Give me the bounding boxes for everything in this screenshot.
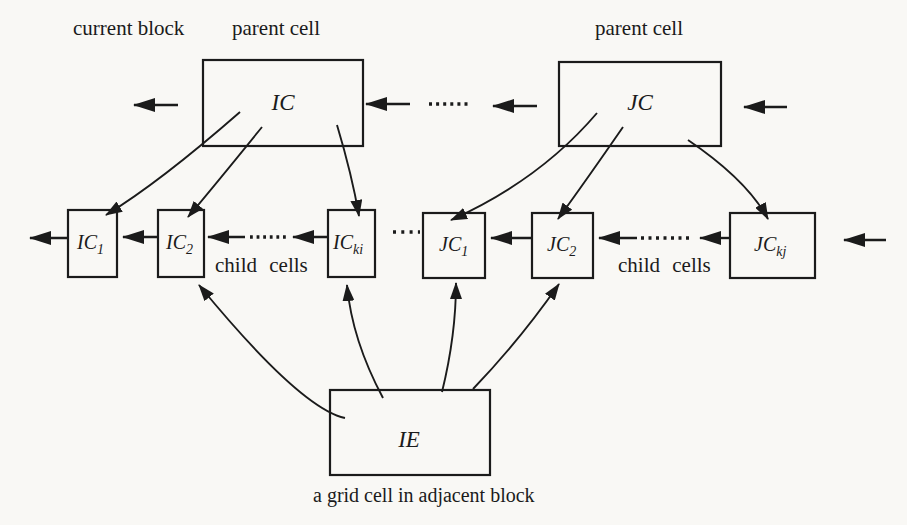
jc1-child-label: JC1 bbox=[439, 233, 468, 259]
arrow-jc-to-jc1 bbox=[451, 113, 597, 220]
parent-cell-label-right: parent cell bbox=[595, 16, 683, 40]
ic2-sub: 2 bbox=[186, 242, 193, 257]
arrow-ic-to-ic2 bbox=[188, 127, 262, 217]
jckj-child-label: JCkj bbox=[754, 233, 786, 259]
jc-parent-label: JC bbox=[627, 90, 653, 115]
icki-main: IC bbox=[332, 231, 354, 253]
jc2-sub: 2 bbox=[569, 244, 576, 259]
arrow-ie-to-jc2 bbox=[473, 284, 559, 389]
jc2-child-label: JC2 bbox=[547, 233, 576, 259]
diagram-stage: current block parent cell parent cell IC… bbox=[0, 0, 907, 525]
child-cells-label-right: child cells bbox=[618, 253, 711, 277]
jc2-main: JC bbox=[547, 233, 570, 255]
current-block-label: current block bbox=[73, 16, 185, 40]
icki-sub: ki bbox=[353, 242, 363, 257]
ic2-child-label: IC2 bbox=[165, 231, 193, 257]
ic1-sub: 1 bbox=[97, 242, 104, 257]
ic1-main: IC bbox=[76, 231, 98, 253]
jckj-sub: kj bbox=[776, 244, 786, 259]
arrow-ic-to-icki bbox=[337, 125, 359, 216]
jc1-sub: 1 bbox=[461, 244, 468, 259]
parent-cell-label-left: parent cell bbox=[232, 16, 320, 40]
arrow-jc-to-jckj bbox=[688, 140, 768, 219]
ie-caption-label: a grid cell in adjacent block bbox=[313, 484, 535, 507]
arrow-ic-to-ic1 bbox=[106, 112, 240, 215]
icki-child-label: ICki bbox=[332, 231, 363, 257]
arrow-jc-to-jc2 bbox=[558, 127, 623, 219]
arrow-ie-to-ic2 bbox=[199, 285, 345, 418]
arrow-ie-to-jc1 bbox=[442, 283, 456, 392]
ie-box-label: IE bbox=[397, 427, 420, 452]
arrow-ie-to-icki bbox=[347, 285, 383, 398]
ic1-child-label: IC1 bbox=[76, 231, 104, 257]
jckj-main: JC bbox=[754, 233, 777, 255]
linked-cell-diagram-canvas: current block parent cell parent cell IC… bbox=[0, 0, 907, 525]
child-cells-label-left: child cells bbox=[215, 253, 308, 277]
ic-parent-label: IC bbox=[271, 90, 296, 115]
ic2-main: IC bbox=[165, 231, 187, 253]
jc1-main: JC bbox=[439, 233, 462, 255]
